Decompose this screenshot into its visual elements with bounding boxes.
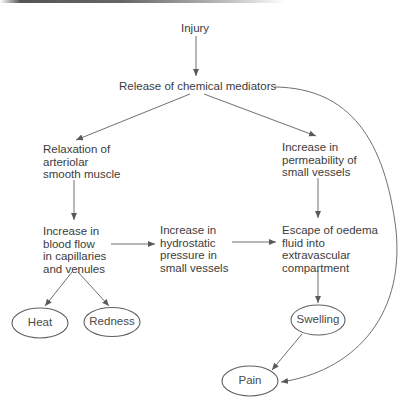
node-relaxation-arteriolar: Relaxation of arteriolar smooth muscle (43, 143, 120, 181)
outcome-redness: Redness (84, 315, 140, 327)
arrow-mediators-to-permeability (204, 94, 316, 136)
arrow-bloodflow-to-redness (78, 272, 109, 306)
flow-diagram (0, 0, 408, 409)
outcome-heat: Heat (12, 316, 68, 328)
arrow-mediators-to-relaxation (76, 94, 190, 140)
arrow-bloodflow-to-heat (45, 272, 72, 306)
outcome-pain: Pain (222, 374, 278, 386)
node-blood-flow: Increase in blood flow in capillaries an… (43, 225, 106, 275)
outcome-swelling: Swelling (291, 313, 345, 325)
node-permeability: Increase in permeability of small vessel… (282, 141, 357, 179)
node-chemical-mediators: Release of chemical mediators (119, 80, 276, 93)
node-oedema-escape: Escape of oedema fluid into extravascula… (282, 224, 378, 274)
node-hydrostatic-pressure: Increase in hydrostatic pressure in smal… (160, 224, 228, 274)
arrow-swelling-to-pain (272, 334, 302, 370)
node-injury: Injury (181, 22, 209, 35)
